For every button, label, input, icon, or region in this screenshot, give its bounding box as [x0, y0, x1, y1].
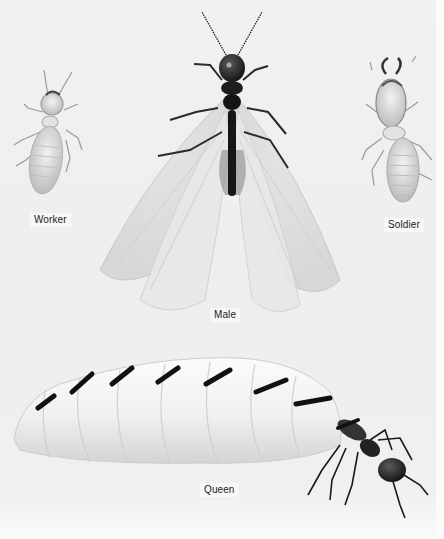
soldier-termite: [362, 56, 432, 202]
male-label: Male: [210, 308, 240, 322]
soldier-label: Soldier: [384, 218, 424, 232]
male-termite: [100, 12, 340, 311]
worker-termite: [14, 70, 82, 196]
queen-label: Queen: [200, 483, 239, 497]
termite-castes-plate: Worker Male Soldier Queen: [0, 0, 444, 539]
worker-label: Worker: [30, 213, 71, 227]
illustration: [0, 0, 444, 539]
